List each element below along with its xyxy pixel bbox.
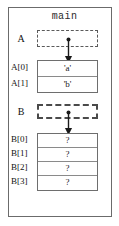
array-index-label: A[0] bbox=[11, 62, 28, 73]
pointer-arrow-b-icon bbox=[63, 110, 74, 135]
array-cell: ? bbox=[38, 148, 97, 162]
array-index-label: B[2] bbox=[11, 162, 28, 173]
array-cell: ? bbox=[38, 162, 97, 176]
array-cell: ? bbox=[38, 176, 97, 190]
variable-label-b: B bbox=[14, 106, 28, 117]
array-box-a: 'a' 'b' bbox=[37, 60, 98, 93]
array-index-label: B[1] bbox=[11, 148, 28, 159]
array-box-b: ? ? ? ? bbox=[37, 133, 98, 191]
array-cell: 'a' bbox=[38, 61, 97, 77]
array-index-label: B[0] bbox=[11, 134, 28, 145]
variable-label-a: A bbox=[14, 33, 28, 44]
array-index-label: A[1] bbox=[11, 78, 28, 89]
stack-frame-title: main bbox=[0, 11, 119, 23]
array-index-label: B[3] bbox=[11, 176, 28, 187]
array-cell: 'b' bbox=[38, 77, 97, 93]
array-cell: ? bbox=[38, 134, 97, 148]
